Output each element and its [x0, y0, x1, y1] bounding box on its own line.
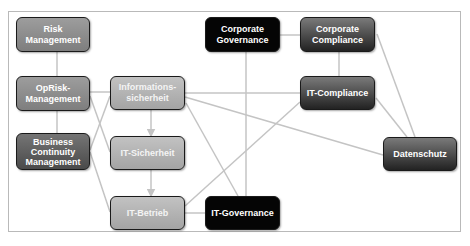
- node-label: OpRisk- Management: [25, 83, 80, 105]
- node-label: IT-Sicherheit: [120, 148, 174, 159]
- node-it-sicherheit[interactable]: IT-Sicherheit: [110, 136, 185, 170]
- node-risk-management[interactable]: Risk Management: [16, 17, 90, 52]
- edge-bcm-itbetrieb: [90, 152, 110, 212]
- node-label: Datenschutz: [393, 149, 447, 160]
- node-label: IT-Governance: [211, 208, 274, 219]
- node-it-compliance[interactable]: IT-Compliance: [300, 76, 375, 110]
- edge-corpcomp-datenschutz: [377, 34, 415, 137]
- node-label: Business Continuity Management: [25, 137, 80, 167]
- node-label: IT-Betrieb: [127, 208, 169, 219]
- node-corporate-compliance[interactable]: Corporate Compliance: [300, 17, 375, 52]
- node-business-continuity-management[interactable]: Business Continuity Management: [16, 133, 90, 170]
- node-label: IT-Compliance: [307, 88, 369, 99]
- node-corporate-governance[interactable]: Corporate Governance: [205, 17, 280, 52]
- node-it-betrieb[interactable]: IT-Betrieb: [110, 196, 185, 230]
- edge-itbetrieb-itcompliance: [185, 102, 300, 206]
- node-label: Corporate Governance: [216, 24, 268, 46]
- node-datenschutz[interactable]: Datenschutz: [383, 137, 457, 171]
- node-label: Risk Management: [25, 24, 80, 46]
- node-label: Corporate Compliance: [312, 24, 363, 46]
- node-oprisk-management[interactable]: OpRisk- Management: [16, 76, 90, 111]
- node-label: Informations- sicherheit: [119, 82, 177, 104]
- node-informationssicherheit[interactable]: Informations- sicherheit: [110, 76, 185, 110]
- node-it-governance[interactable]: IT-Governance: [205, 196, 280, 230]
